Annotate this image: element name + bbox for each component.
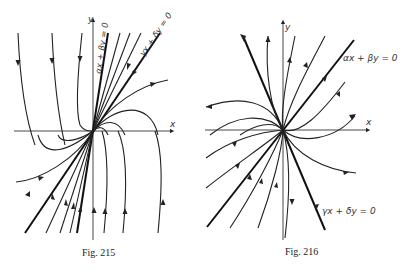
line-label-alpha-beta: αx + βy = 0 — [93, 22, 110, 74]
x-axis-label: x — [169, 119, 176, 129]
trajectory — [52, 33, 65, 145]
figure-216: x y — [205, 22, 398, 257]
diagram-canvas: x y — [0, 0, 404, 269]
line-label-gamma-delta: γx + δy = 0 — [322, 206, 376, 216]
y-axis-label: y — [284, 22, 291, 32]
trajectory — [77, 33, 93, 131]
figure-215: x y — [14, 10, 176, 258]
trajectory — [18, 33, 35, 145]
figure-caption: Fig. 215 — [82, 247, 115, 258]
figure-caption: Fig. 216 — [285, 246, 318, 257]
line-label-gamma-delta: γx + δy = 0 — [137, 10, 174, 58]
line-label-alpha-beta: αx + βy = 0 — [343, 53, 398, 63]
x-axis-label: x — [365, 117, 372, 127]
y-axis-label: y — [87, 14, 94, 24]
